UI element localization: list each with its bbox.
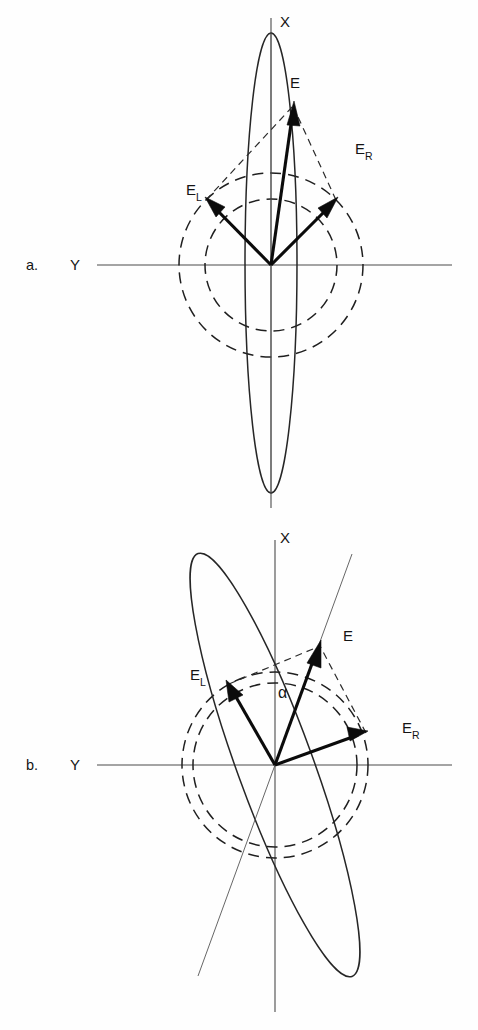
vector-E-b bbox=[275, 640, 321, 765]
vector-ER-shaft-a bbox=[271, 206, 330, 265]
vector-label-EL-sub-b: L bbox=[200, 676, 206, 688]
vector-EL-b bbox=[226, 680, 275, 765]
vector-ER-arrowhead-b bbox=[347, 727, 368, 741]
construction-line-right-a bbox=[293, 106, 336, 200]
axis-label-y-a: Y bbox=[70, 256, 80, 273]
vector-label-EL-b: E L bbox=[190, 666, 206, 688]
vector-E-arrowhead-b bbox=[307, 640, 321, 668]
angle-label-alpha-b: α bbox=[278, 684, 287, 701]
vector-label-ER-b: E R bbox=[402, 719, 420, 741]
vector-label-ER-a: E R bbox=[355, 140, 373, 162]
construction-line-left-a bbox=[206, 106, 293, 200]
construction-line-right-b bbox=[320, 646, 366, 733]
vector-label-ER-base-a: E bbox=[355, 140, 365, 157]
vector-label-ER-sub-b: R bbox=[412, 729, 420, 741]
vector-label-ER-base-b: E bbox=[402, 719, 412, 736]
axis-label-x-a: X bbox=[280, 13, 290, 30]
panel-a-diagram: X Y a. E E R E L bbox=[0, 0, 478, 515]
vector-label-E-b: E bbox=[343, 627, 353, 644]
panel-tag-a: a. bbox=[26, 257, 38, 273]
axis-label-y-b: Y bbox=[70, 756, 80, 773]
vector-EL-shaft-b bbox=[232, 690, 275, 765]
vector-label-EL-sub-a: L bbox=[196, 191, 202, 203]
vector-E-shaft-b bbox=[275, 650, 317, 765]
axis-label-x-b: X bbox=[280, 529, 290, 546]
panel-b-diagram: X Y b. α E E R E L bbox=[0, 515, 478, 1030]
vector-label-EL-base-a: E bbox=[186, 181, 196, 198]
vector-E-arrowhead-a bbox=[287, 101, 300, 126]
vector-label-E-a: E bbox=[290, 74, 300, 91]
figure-root: X Y a. E E R E L bbox=[0, 0, 478, 1030]
vector-label-ER-sub-a: R bbox=[365, 150, 373, 162]
vector-EL-shaft-a bbox=[213, 206, 271, 265]
vector-E-shaft-a bbox=[271, 110, 293, 265]
vector-label-EL-base-b: E bbox=[190, 666, 200, 683]
panel-tag-b: b. bbox=[26, 757, 38, 773]
vector-ER-shaft-b bbox=[275, 735, 358, 765]
vector-label-EL-a: E L bbox=[186, 181, 202, 203]
